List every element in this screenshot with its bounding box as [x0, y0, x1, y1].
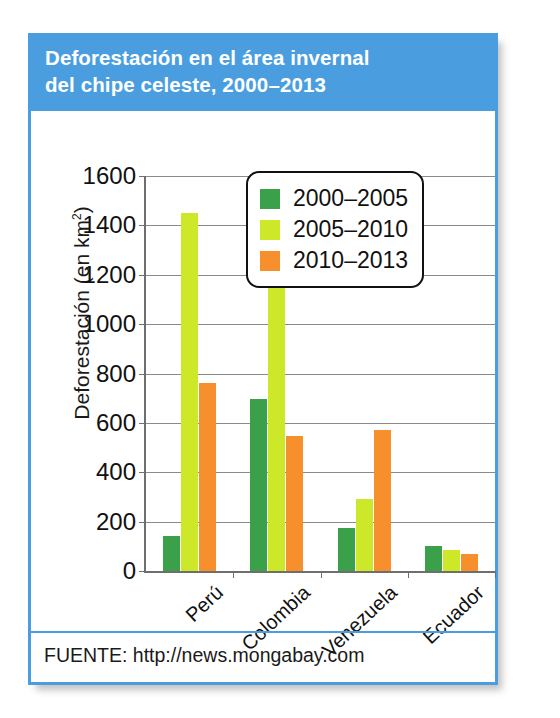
bar	[425, 546, 442, 571]
y-axis-tick-label: 1400	[83, 213, 136, 237]
legend-label: 2010–2013	[293, 249, 408, 272]
source-divider	[31, 631, 495, 633]
legend-item: 2000–2005	[260, 183, 408, 214]
y-axis-tick	[139, 423, 146, 424]
chart-body-frame: Deforestación (en km2) 16001400120010008…	[28, 111, 498, 685]
bar	[250, 399, 267, 571]
x-axis-tick-label: Perú	[181, 581, 228, 627]
y-axis-tick	[139, 571, 146, 572]
gridline	[146, 374, 495, 375]
y-axis-tick-label: 1000	[83, 312, 136, 336]
x-axis-tick	[321, 571, 322, 578]
y-axis-tick	[139, 374, 146, 375]
bar	[374, 430, 391, 571]
bar	[199, 383, 216, 571]
x-axis-tick	[233, 571, 234, 578]
y-axis-tick-label: 200	[96, 509, 136, 533]
chart-card: Deforestación en el área invernal del ch…	[28, 33, 498, 685]
bar	[461, 554, 478, 571]
y-axis-tick	[139, 324, 146, 325]
y-axis-tick-label: 800	[96, 361, 136, 385]
legend-swatch	[260, 189, 280, 209]
bar	[286, 436, 303, 571]
legend-item: 2005–2010	[260, 214, 408, 245]
bar-chart: Deforestación (en km2) 16001400120010008…	[31, 111, 495, 631]
legend-swatch	[260, 220, 280, 240]
chart-title-line-2: del chipe celeste, 2000–2013	[45, 71, 498, 98]
chart-legend: 2000–20052005–20102010–2013	[246, 171, 424, 288]
y-axis-tick	[139, 225, 146, 226]
chart-title-banner: Deforestación en el área invernal del ch…	[28, 33, 498, 111]
bar	[338, 528, 355, 571]
x-axis-tick	[495, 571, 496, 578]
y-axis-tick-label: 1600	[83, 164, 136, 188]
legend-label: 2000–2005	[293, 187, 408, 210]
x-axis-tick	[408, 571, 409, 578]
y-axis-tick	[139, 176, 146, 177]
source-text: FUENTE: http://news.mongabay.com	[44, 644, 364, 667]
y-axis-tick-label: 0	[123, 559, 136, 583]
bar	[356, 499, 373, 571]
legend-swatch	[260, 251, 280, 271]
y-axis-tick	[139, 275, 146, 276]
chart-title-line-1: Deforestación en el área invernal	[45, 44, 498, 71]
y-axis-tick	[139, 472, 146, 473]
gridline	[146, 324, 495, 325]
legend-item: 2010–2013	[260, 245, 408, 276]
bar	[443, 550, 460, 571]
y-axis-tick-label: 600	[96, 410, 136, 434]
bar	[163, 536, 180, 571]
y-axis-tick-label: 1200	[83, 262, 136, 286]
y-axis-tick	[139, 522, 146, 523]
bar	[181, 213, 198, 571]
y-axis-tick-label: 400	[96, 460, 136, 484]
legend-label: 2005–2010	[293, 218, 408, 241]
bar	[268, 267, 285, 571]
x-axis-tick-label: Ecuador	[419, 581, 489, 649]
